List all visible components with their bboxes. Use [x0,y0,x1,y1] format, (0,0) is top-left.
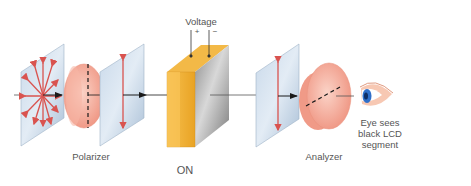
vertically-polarized-panel [100,44,146,146]
eye-caption-line3: segment [350,139,410,150]
liquid-crystal-cell [167,45,229,147]
eye-caption-line1: Eye sees [350,117,410,128]
unpolarized-light-panel [21,44,64,146]
polarizer-label: Polarizer [56,151,126,162]
analyzer-label: Analyzer [289,151,359,162]
eye-icon [360,83,393,106]
vertically-polarized-panel-2 [256,44,299,147]
minus-label: − [210,26,220,37]
polarizer-lens [64,64,104,128]
eye-caption-line2: black LCD [350,128,410,139]
plus-label: + [192,26,202,37]
eye-caption: Eye sees black LCD segment [350,117,410,150]
state-label: ON [160,165,210,176]
analyzer-lens [299,63,351,130]
